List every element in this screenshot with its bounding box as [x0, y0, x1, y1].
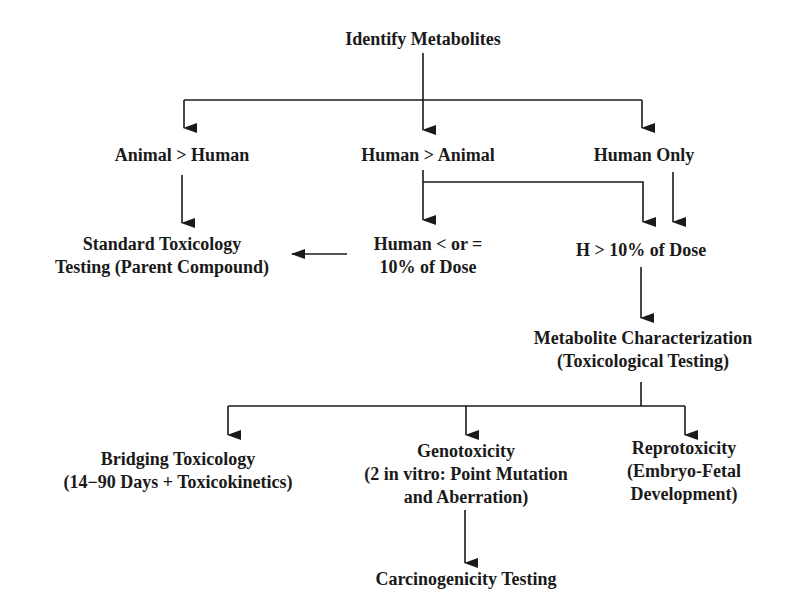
- node-label-line-3: Development): [627, 483, 741, 506]
- node-carcinogenicity-testing: Carcinogenicity Testing: [375, 568, 556, 591]
- node-label: Carcinogenicity Testing: [375, 568, 556, 591]
- node-label-line-1: Metabolite Characterization: [534, 327, 752, 350]
- node-label-line-2: (2 in vitro: Point Mutation: [364, 463, 568, 486]
- node-identify-metabolites: Identify Metabolites: [345, 28, 500, 51]
- node-label: H > 10% of Dose: [576, 239, 706, 262]
- node-human-only: Human Only: [594, 144, 695, 167]
- node-human-le-10-percent: Human < or = 10% of Dose: [374, 233, 483, 279]
- node-label-line-1: Human < or =: [374, 233, 483, 256]
- node-label-line-1: Reprotoxicity: [627, 437, 741, 460]
- node-animal-gt-human: Animal > Human: [115, 144, 249, 167]
- node-reprotoxicity: Reprotoxicity (Embryo-Fetal Development): [627, 437, 741, 506]
- node-metabolite-characterization: Metabolite Characterization (Toxicologic…: [534, 327, 752, 373]
- node-label-line-3: and Aberration): [364, 486, 568, 509]
- node-h-gt-10-percent: H > 10% of Dose: [576, 239, 706, 262]
- node-label-line-1: Bridging Toxicology: [63, 448, 292, 471]
- node-label-line-2: (Toxicological Testing): [534, 350, 752, 373]
- node-genotoxicity: Genotoxicity (2 in vitro: Point Mutation…: [364, 440, 568, 509]
- node-label-line-2: (14−90 Days + Toxicokinetics): [63, 471, 292, 494]
- node-label: Human > Animal: [361, 144, 494, 167]
- node-label-line-2: 10% of Dose: [374, 256, 483, 279]
- node-label: Identify Metabolites: [345, 28, 500, 51]
- node-label-line-2: (Embryo-Fetal: [627, 460, 741, 483]
- node-label-line-1: Standard Toxicology: [55, 233, 269, 256]
- node-label-line-1: Genotoxicity: [364, 440, 568, 463]
- node-bridging-toxicology: Bridging Toxicology (14−90 Days + Toxico…: [63, 448, 292, 494]
- node-standard-toxicology: Standard Toxicology Testing (Parent Comp…: [55, 233, 269, 279]
- node-label: Animal > Human: [115, 144, 249, 167]
- node-human-gt-animal: Human > Animal: [361, 144, 494, 167]
- node-label-line-2: Testing (Parent Compound): [55, 256, 269, 279]
- node-label: Human Only: [594, 144, 695, 167]
- connector-lines: [0, 0, 793, 614]
